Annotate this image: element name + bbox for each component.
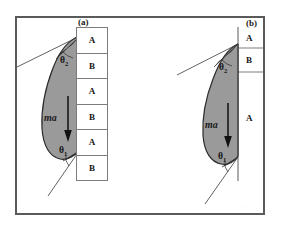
panel-a-layer-stack: A B A B A B xyxy=(76,27,108,181)
figure-container: A B A B A B A B A (a) (b) θ2 θ1 θ2 θ1 ma… xyxy=(0,0,282,231)
panel-b-layer-label: A xyxy=(246,113,253,123)
panel-b-force-label: ma xyxy=(205,119,218,130)
panel-a-force-label: ma xyxy=(44,112,57,123)
theta-subscript: 1 xyxy=(223,156,226,163)
theta-subscript: 2 xyxy=(65,60,68,67)
panel-a-layer-cell: A xyxy=(77,28,107,54)
panel-a-theta2-label: θ2 xyxy=(60,55,68,67)
panel-a-layer-cell: B xyxy=(77,105,107,131)
panel-b-label: (b) xyxy=(246,18,257,28)
panel-b-layer-label: B xyxy=(246,55,252,65)
theta-subscript: 1 xyxy=(64,150,67,157)
panel-a-layer-cell: B xyxy=(77,156,107,182)
panel-a-layer-cell: A xyxy=(77,130,107,156)
panel-b-layer-label: A xyxy=(246,33,253,43)
panel-b-theta1-label: θ1 xyxy=(218,151,226,163)
panel-a-theta1-label: θ1 xyxy=(59,145,67,157)
panel-a-layer-cell: A xyxy=(77,79,107,105)
panel-a-layer-cell: B xyxy=(77,54,107,80)
panel-a-label: (a) xyxy=(78,17,89,27)
figure-artwork xyxy=(0,0,282,231)
theta-subscript: 2 xyxy=(224,67,227,74)
corner-artifact-text: ...... xyxy=(243,205,248,208)
panel-b-theta2-label: θ2 xyxy=(219,62,227,74)
